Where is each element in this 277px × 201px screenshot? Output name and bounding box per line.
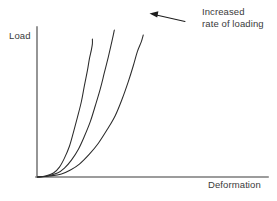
chart-canvas	[0, 0, 277, 201]
annotation-increased-rate-of-loading: Increased rate of loading	[202, 6, 276, 29]
curves	[38, 30, 144, 177]
curve-series-1	[38, 30, 115, 177]
arrow-head-icon	[150, 11, 159, 17]
annotation-line-2: rate of loading	[202, 18, 276, 30]
y-axis-label: Load	[9, 30, 31, 42]
load-deformation-chart: Load Deformation Increased rate of loadi…	[0, 0, 277, 201]
arrow-shaft	[153, 14, 185, 21]
curve-series-2	[38, 39, 93, 177]
x-axis-label: Deformation	[208, 179, 261, 191]
axes	[36, 27, 268, 177]
trend-arrow	[150, 11, 186, 21]
annotation-line-1: Increased	[202, 6, 276, 18]
